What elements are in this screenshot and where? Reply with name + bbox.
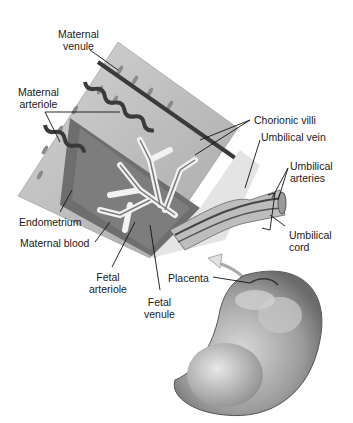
label-line-1: Fetal bbox=[144, 296, 175, 308]
label-umbilical-cord: Umbilical cord bbox=[289, 229, 332, 253]
label-line-2: venule bbox=[144, 308, 175, 320]
label-line-1: Umbilical bbox=[290, 160, 333, 172]
label-umbilical-vein: Umbilical vein bbox=[261, 131, 326, 143]
label-umbilical-arteries: Umbilical arteries bbox=[290, 160, 333, 184]
label-fetal-venule: Fetal venule bbox=[144, 296, 175, 320]
label-line-1: Umbilical bbox=[289, 229, 332, 241]
label-line-2: cord bbox=[289, 241, 332, 253]
placenta-diagram: Maternal venule Maternal arteriole Chori… bbox=[0, 0, 353, 423]
label-line-2: venule bbox=[58, 40, 99, 52]
label-line-2: arteriole bbox=[89, 283, 127, 295]
label-maternal-blood: Maternal blood bbox=[20, 237, 89, 249]
label-maternal-venule: Maternal venule bbox=[58, 28, 99, 52]
label-maternal-arteriole: Maternal arteriole bbox=[18, 86, 59, 110]
label-endometrium: Endometrium bbox=[19, 216, 81, 228]
label-line-1: Maternal bbox=[58, 28, 99, 40]
label-placenta: Placenta bbox=[168, 272, 209, 284]
label-line-2: arteriole bbox=[18, 98, 59, 110]
label-fetal-arteriole: Fetal arteriole bbox=[89, 271, 127, 295]
label-chorionic-villi: Chorionic villi bbox=[254, 114, 316, 126]
uterus-with-fetus bbox=[174, 271, 322, 415]
label-line-1: Maternal bbox=[18, 86, 59, 98]
diagram-illustration bbox=[0, 0, 353, 423]
label-line-2: arteries bbox=[290, 172, 333, 184]
label-line-1: Fetal bbox=[89, 271, 127, 283]
